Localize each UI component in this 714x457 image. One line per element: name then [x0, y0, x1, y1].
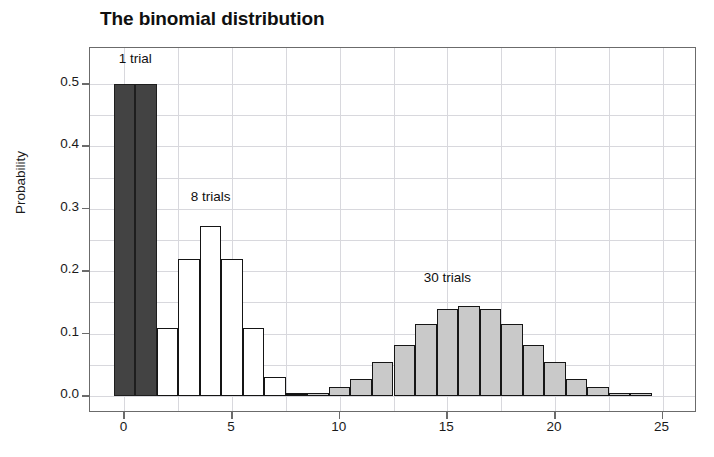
y-tick-mark — [82, 208, 89, 210]
x-tick-label: 20 — [532, 419, 576, 434]
x-tick-mark — [662, 412, 664, 419]
x-tick-label: 0 — [101, 419, 145, 434]
x-tick-label: 10 — [317, 419, 361, 434]
bar — [630, 393, 652, 396]
bar — [200, 226, 222, 396]
binomial-distribution-figure: The binomial distribution Probability 0.… — [0, 0, 714, 457]
bar — [394, 345, 416, 396]
bar — [480, 309, 502, 396]
y-tick-label: 0.0 — [37, 386, 79, 401]
bar — [415, 324, 437, 396]
x-tick-mark — [231, 412, 233, 419]
bar — [264, 377, 286, 396]
bar — [501, 324, 523, 396]
bar — [544, 362, 566, 396]
x-tick-mark — [339, 412, 341, 419]
bars-layer — [90, 48, 697, 413]
bar — [437, 309, 459, 396]
y-tick-label: 0.1 — [37, 324, 79, 339]
y-tick-label: 0.2 — [37, 261, 79, 276]
series-annotation: 8 trials — [191, 189, 231, 204]
bar — [523, 345, 545, 396]
x-tick-label: 15 — [424, 419, 468, 434]
y-tick-mark — [82, 270, 89, 272]
bar — [157, 328, 179, 396]
x-tick-mark — [446, 412, 448, 419]
x-tick-mark — [123, 412, 125, 419]
y-tick-mark — [82, 145, 89, 147]
bar — [135, 84, 157, 396]
series-annotation: 1 trial — [119, 51, 152, 66]
series-annotation: 30 trials — [424, 270, 471, 285]
bar — [114, 84, 136, 396]
bar — [307, 393, 329, 396]
bar — [221, 259, 243, 396]
bar — [587, 387, 609, 396]
y-tick-label: 0.3 — [37, 199, 79, 214]
bar — [609, 393, 631, 396]
x-tick-mark — [554, 412, 556, 419]
bar — [372, 362, 394, 396]
x-tick-label: 5 — [209, 419, 253, 434]
y-tick-mark — [82, 83, 89, 85]
bar — [350, 379, 372, 396]
bar — [178, 259, 200, 396]
y-tick-mark — [82, 395, 89, 397]
bar — [566, 379, 588, 396]
y-tick-mark — [82, 333, 89, 335]
bar — [329, 387, 351, 396]
y-tick-label: 0.4 — [37, 136, 79, 151]
y-tick-label: 0.5 — [37, 74, 79, 89]
x-tick-label: 25 — [640, 419, 684, 434]
plot-area: 1 trial8 trials30 trials — [89, 47, 696, 412]
bar — [458, 306, 480, 396]
y-axis-label: Probability — [13, 103, 28, 263]
page-title: The binomial distribution — [100, 8, 324, 30]
bar — [286, 394, 308, 397]
bar — [243, 328, 265, 396]
